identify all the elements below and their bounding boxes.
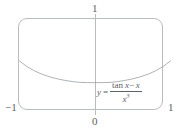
equation-numerator: tan x− x xyxy=(110,81,142,91)
y-axis-line xyxy=(95,14,96,115)
equation-equals-sign: = xyxy=(103,88,108,97)
equation-denominator-exponent: 3 xyxy=(126,93,129,99)
equation-denominator: x3 xyxy=(120,92,131,104)
equation-numerator-term: x xyxy=(136,80,140,90)
axis-label-y-top: 1 xyxy=(92,3,98,14)
equation-annotation: y = tan x− x x3 xyxy=(97,81,142,104)
axis-label-origin: 0 xyxy=(92,116,98,127)
axis-label-x-max: 1 xyxy=(168,102,174,113)
axis-label-x-min: −1 xyxy=(5,102,17,113)
equation-lhs: y xyxy=(97,88,101,97)
function-plot-figure: 1 0 −1 1 y = tan x− x x3 xyxy=(0,0,178,131)
equation-numerator-function: tan xyxy=(112,80,123,90)
equation-fraction: tan x− x x3 xyxy=(110,81,142,104)
equation-numerator-minus: − xyxy=(129,80,134,90)
